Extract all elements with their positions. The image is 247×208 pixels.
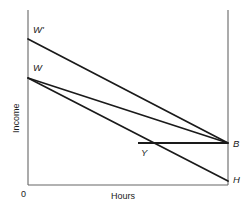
budget-line-w-to-b xyxy=(28,78,228,143)
budget-line-w-to-h xyxy=(28,78,228,181)
point-label-y: Y xyxy=(141,148,147,158)
budget-line-w-prime-to-b xyxy=(28,39,228,143)
income-hours-chart: W' W Y B H 0 Income Hours xyxy=(0,0,247,208)
point-label-h: H xyxy=(233,175,240,185)
origin-label: 0 xyxy=(21,190,26,199)
y-axis-title: Income xyxy=(12,103,21,133)
point-label-w: W xyxy=(33,63,42,73)
x-axis-title: Hours xyxy=(111,192,135,201)
point-label-w-prime: W' xyxy=(33,25,44,35)
point-label-b: B xyxy=(233,139,239,149)
